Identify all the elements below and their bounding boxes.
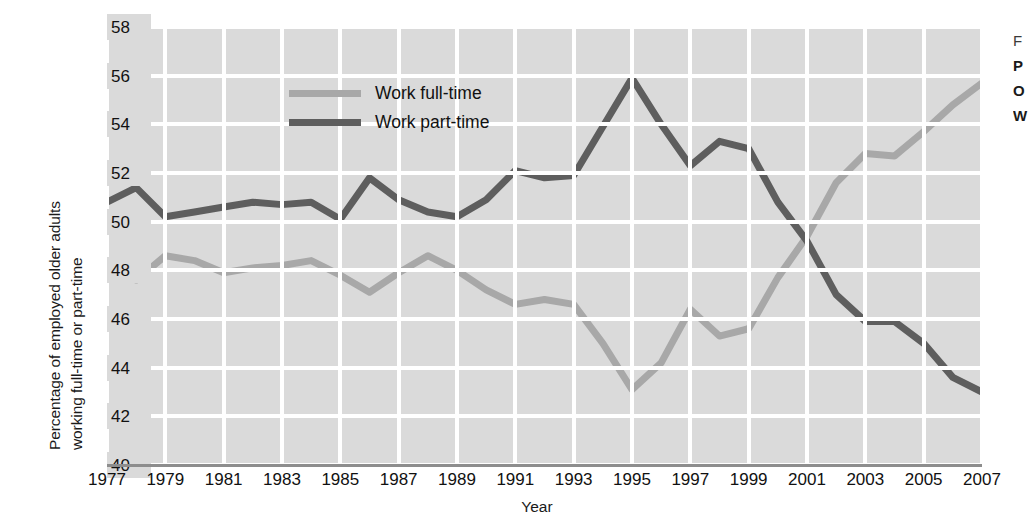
x-tick-label: 1993 xyxy=(544,470,604,490)
legend-label-part-time: Work part-time xyxy=(375,112,489,133)
x-tick-label: 1979 xyxy=(135,470,195,490)
gridline-horizontal xyxy=(107,122,982,126)
y-tick-label: 50 xyxy=(111,214,147,231)
legend-item-work-full-time: Work full-time xyxy=(289,79,489,108)
series-lines xyxy=(107,27,982,465)
x-tick-label: 1983 xyxy=(252,470,312,490)
gridline-vertical xyxy=(805,27,809,465)
x-tick-label: 1997 xyxy=(660,470,720,490)
gridline-horizontal xyxy=(107,366,982,370)
x-tick-label: 1981 xyxy=(194,470,254,490)
side-caption: F P O W xyxy=(1013,28,1034,128)
chart-legend: Work full-time Work part-time xyxy=(289,79,489,137)
side-caption-line-2: P xyxy=(1013,53,1034,78)
legend-item-work-part-time: Work part-time xyxy=(289,108,489,137)
chart-plot-area: 40424446485052545658 Work full-time Work… xyxy=(107,27,982,465)
x-tick-label: 2003 xyxy=(835,470,895,490)
x-tick-label: 1977 xyxy=(77,470,137,490)
gridline-horizontal xyxy=(107,171,982,175)
gridline-vertical xyxy=(747,27,751,465)
y-tick-label: 54 xyxy=(111,116,147,133)
gridline-vertical xyxy=(163,27,167,465)
x-tick-label: 1987 xyxy=(369,470,429,490)
y-axis-title-line-1: Percentage of employed older adults xyxy=(46,201,64,450)
y-tick-label: 46 xyxy=(111,311,147,328)
side-caption-line-1: F xyxy=(1013,28,1034,53)
gridline-vertical xyxy=(513,27,517,465)
x-tick-label: 2001 xyxy=(777,470,837,490)
y-tick-label: 42 xyxy=(111,408,147,425)
x-tick-label: 1991 xyxy=(485,470,545,490)
y-tick-label: 58 xyxy=(111,19,147,36)
gridline-horizontal xyxy=(107,25,982,29)
side-caption-line-3: O xyxy=(1013,78,1034,103)
line-work-full-time xyxy=(107,83,982,390)
gridline-vertical xyxy=(688,27,692,465)
gridline-vertical xyxy=(280,27,284,465)
gridline-vertical xyxy=(105,27,109,465)
x-tick-label: 2007 xyxy=(952,470,1012,490)
y-tick-label: 56 xyxy=(111,68,147,85)
gridline-vertical xyxy=(922,27,926,465)
gridline-vertical xyxy=(980,27,984,465)
side-caption-line-4: W xyxy=(1013,103,1034,128)
x-tick-label: 1989 xyxy=(427,470,487,490)
gridline-horizontal xyxy=(107,268,982,272)
x-tick-label: 2005 xyxy=(894,470,954,490)
gridline-horizontal xyxy=(107,74,982,78)
y-axis-title: Percentage of employed older adults work… xyxy=(0,0,104,470)
gridline-horizontal xyxy=(107,317,982,321)
legend-swatch-full-time xyxy=(289,90,361,97)
gridline-horizontal xyxy=(107,220,982,224)
x-axis-title: Year xyxy=(0,498,1034,516)
y-axis-title-line-2: working full-time or part-time xyxy=(68,257,86,450)
gridline-vertical xyxy=(572,27,576,465)
x-axis-line xyxy=(107,464,982,467)
y-tick-label: 48 xyxy=(111,262,147,279)
legend-swatch-part-time xyxy=(289,119,361,126)
legend-label-full-time: Work full-time xyxy=(375,83,482,104)
x-tick-label: 1995 xyxy=(602,470,662,490)
gridline-vertical xyxy=(630,27,634,465)
y-tick-label: 52 xyxy=(111,165,147,182)
y-tick-label: 44 xyxy=(111,360,147,377)
x-tick-label: 1985 xyxy=(310,470,370,490)
gridline-horizontal xyxy=(107,414,982,418)
x-tick-label: 1999 xyxy=(719,470,779,490)
gridline-vertical xyxy=(863,27,867,465)
gridline-vertical xyxy=(222,27,226,465)
